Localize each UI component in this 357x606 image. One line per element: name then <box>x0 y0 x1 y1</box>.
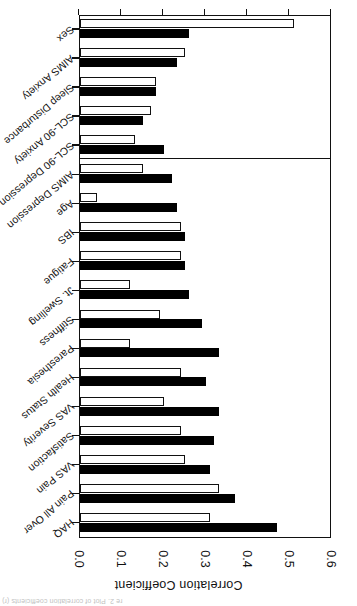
bar-black <box>80 203 177 212</box>
bar-black <box>80 145 164 154</box>
value-axis-tick-marks <box>79 8 331 15</box>
bar-white <box>80 484 219 493</box>
bar-black <box>80 29 189 38</box>
bar-white <box>80 426 181 435</box>
bar-black <box>80 407 219 416</box>
figure-canvas: re 2. Plot of correlation coefficients (… <box>0 0 357 606</box>
value-axis-tick-mark <box>330 9 331 15</box>
value-axis-tick-label: 0.4 <box>240 550 254 567</box>
category-label: Age <box>54 198 76 219</box>
value-axis-tick-mark <box>120 9 121 15</box>
value-axis-tick-label: 0.6 <box>324 550 338 567</box>
bar-white <box>80 222 181 231</box>
category-label: IBS <box>56 227 77 247</box>
bar-white <box>80 19 294 28</box>
value-axis-tick-label: 0.3 <box>198 550 212 567</box>
bar-white <box>80 310 160 319</box>
bar-white <box>80 135 135 144</box>
bar-black <box>80 436 214 445</box>
bar-black <box>80 87 156 96</box>
bar-black <box>80 290 189 299</box>
bar-black <box>80 523 277 532</box>
value-axis-tick-mark <box>162 9 163 15</box>
bar-white <box>80 368 181 377</box>
bar-black <box>80 348 219 357</box>
bar-white <box>80 77 156 86</box>
bar-black <box>80 58 177 67</box>
cropped-caption: re 2. Plot of correlation coefficients (… <box>2 598 122 605</box>
bar-white <box>80 455 185 464</box>
group-separator-line <box>80 158 330 159</box>
value-axis-tick-mark <box>288 9 289 15</box>
bar-white <box>80 164 143 173</box>
bar-white <box>80 513 210 522</box>
value-axis-tick-label: 0.1 <box>114 550 128 567</box>
category-label: Sex <box>55 24 77 45</box>
plot-area <box>79 15 331 538</box>
value-axis-tick-label: 0.5 <box>282 550 296 567</box>
value-axis-title: Correlation Coefficient <box>0 578 357 592</box>
category-label: Fatigue <box>42 256 77 288</box>
bar-black <box>80 232 185 241</box>
bar-white <box>80 280 130 289</box>
value-axis-tick-label: 0.0 <box>72 550 86 567</box>
value-axis-tick-mark <box>204 9 205 15</box>
bar-black <box>80 378 206 387</box>
bar-white <box>80 48 185 57</box>
bar-black <box>80 174 172 183</box>
bar-white <box>80 397 164 406</box>
bar-black <box>80 319 202 328</box>
value-axis-tick-labels: 0.00.10.20.30.40.50.6 <box>0 542 357 566</box>
value-axis-tick-mark <box>78 9 79 15</box>
category-label: HAQ <box>51 517 76 541</box>
bar-black <box>80 261 185 270</box>
bar-white <box>80 339 130 348</box>
bar-black <box>80 465 210 474</box>
bar-black <box>80 116 143 125</box>
bar-white <box>80 193 97 202</box>
value-axis-tick-mark <box>246 9 247 15</box>
bar-black <box>80 494 235 503</box>
value-axis-tick-label: 0.2 <box>156 550 170 567</box>
bar-white <box>80 251 181 260</box>
bar-white <box>80 106 151 115</box>
